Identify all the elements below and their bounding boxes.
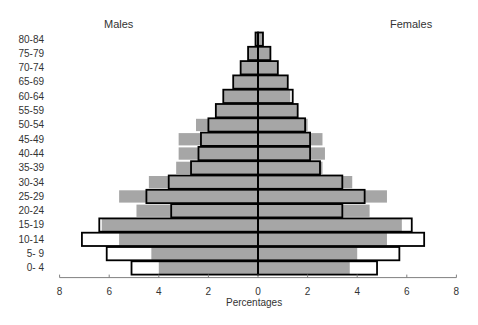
female-gray-bar [258, 62, 278, 74]
female-gray-bar [258, 47, 270, 59]
female-gray-bar [258, 205, 370, 217]
male-gray-bar [233, 76, 258, 88]
female-gray-bar [258, 119, 308, 131]
x-tick-label: 0 [248, 286, 268, 297]
female-gray-bar [258, 176, 352, 188]
female-gray-bar [258, 105, 298, 117]
female-gray-bar [258, 133, 322, 145]
female-gray-bar [258, 248, 357, 260]
x-tick-label: 6 [99, 286, 119, 297]
female-gray-bar [258, 262, 350, 274]
male-gray-bar [196, 119, 258, 131]
male-gray-bar [241, 62, 258, 74]
x-tick-label: 4 [149, 286, 169, 297]
male-gray-bar [102, 219, 258, 231]
female-gray-bar [258, 190, 387, 202]
female-gray-bar [258, 233, 387, 245]
female-gray-bar [258, 90, 290, 102]
male-gray-bar [136, 205, 258, 217]
male-gray-bar [119, 190, 258, 202]
male-gray-bar [159, 262, 258, 274]
female-gray-bar [258, 147, 325, 159]
x-tick-label: 2 [298, 286, 318, 297]
population-pyramid-chart: Males Females 80-8475-7970-7465-6960-645… [0, 0, 478, 325]
x-axis-label: Percentages [226, 297, 282, 308]
male-gray-bar [151, 248, 258, 260]
male-gray-bar [119, 233, 258, 245]
plot-area [0, 0, 478, 325]
female-gray-bar [258, 76, 288, 88]
male-gray-bar [216, 105, 258, 117]
male-gray-bar [248, 47, 258, 59]
female-gray-bar [258, 162, 322, 174]
male-gray-bar [223, 90, 258, 102]
male-gray-bar [176, 162, 258, 174]
x-tick-label: 8 [50, 286, 70, 297]
male-gray-bar [179, 133, 258, 145]
x-tick-label: 2 [198, 286, 218, 297]
male-gray-bar [149, 176, 258, 188]
female-gray-bar [258, 219, 402, 231]
male-gray-bar [179, 147, 258, 159]
x-tick-label: 6 [397, 286, 417, 297]
x-tick-label: 4 [347, 286, 367, 297]
x-tick-label: 8 [446, 286, 466, 297]
